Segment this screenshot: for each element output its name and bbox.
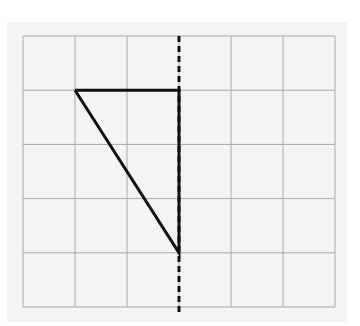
grid-diagram xyxy=(0,0,360,326)
